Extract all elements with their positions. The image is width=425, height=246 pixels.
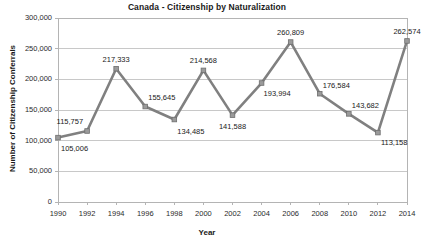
y-tick-label: 50,000 (0, 166, 52, 175)
data-point-label: 113,158 (381, 138, 408, 147)
data-point-label: 143,682 (352, 101, 379, 110)
data-point-label: 262,574 (387, 27, 425, 36)
y-tick-label: 200,000 (0, 74, 52, 83)
y-tick-label: 250,000 (0, 44, 52, 53)
data-point-label: 134,485 (177, 127, 204, 136)
gridlines (55, 18, 407, 202)
x-tick-label: 2014 (387, 209, 425, 218)
y-tick-label: 300,000 (0, 13, 52, 22)
data-point-label: 214,568 (183, 56, 223, 65)
data-point-label: 105,006 (61, 144, 88, 153)
y-tick-label: 150,000 (0, 105, 52, 114)
y-tick-label: 100,000 (0, 136, 52, 145)
data-point-label: 141,588 (213, 122, 253, 131)
data-point-label: 193,994 (264, 89, 291, 98)
data-point-label: 155,645 (148, 93, 175, 102)
data-point-label: 176,584 (323, 81, 350, 90)
y-tick-label: 0 (0, 197, 52, 206)
data-point-label: 115,757 (57, 117, 84, 126)
data-point-label: 217,333 (96, 55, 136, 64)
data-point-label: 260,809 (271, 28, 311, 37)
plot-border (58, 18, 407, 205)
